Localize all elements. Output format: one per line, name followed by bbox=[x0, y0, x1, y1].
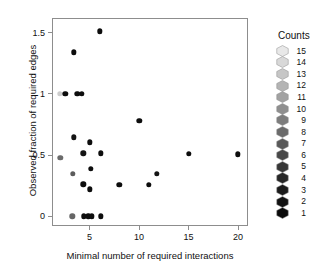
legend-count-label: 14 bbox=[292, 58, 306, 67]
x-tick-label: 5 bbox=[75, 232, 105, 242]
legend-count-label: 13 bbox=[292, 70, 306, 79]
hexagon-swatch-icon bbox=[276, 68, 289, 80]
legend-count-label: 10 bbox=[292, 105, 306, 114]
legend-item: 14 bbox=[276, 57, 327, 69]
legend-count-label: 8 bbox=[292, 128, 306, 137]
legend-count-label: 3 bbox=[292, 186, 306, 195]
x-axis-title: Minimal number of required interactions bbox=[52, 250, 248, 261]
x-tick-label: 15 bbox=[174, 232, 204, 242]
legend-item: 11 bbox=[276, 91, 327, 103]
hexagon-swatch-icon bbox=[276, 149, 289, 161]
y-tick-mark bbox=[48, 155, 52, 156]
hexagon-swatch-icon bbox=[276, 103, 289, 115]
legend-item: 8 bbox=[276, 126, 327, 138]
x-tick-mark bbox=[89, 226, 90, 230]
legend-item: 2 bbox=[276, 196, 327, 208]
hexagon-swatch-icon bbox=[276, 184, 289, 196]
legend-item: 5 bbox=[276, 161, 327, 173]
hexagon-swatch-icon bbox=[276, 56, 289, 68]
legend-count-label: 4 bbox=[292, 174, 306, 183]
legend-item: 6 bbox=[276, 149, 327, 161]
hexagon-swatch-icon bbox=[276, 45, 289, 57]
counts-legend: Counts 151413121110987654321 bbox=[276, 30, 327, 219]
hexagon-swatch-icon bbox=[276, 161, 289, 173]
hexagon-swatch-icon bbox=[276, 207, 289, 219]
legend-count-label: 1 bbox=[292, 209, 306, 218]
hexagon-swatch-icon bbox=[276, 138, 289, 150]
legend-count-label: 2 bbox=[292, 197, 306, 206]
legend-item: 9 bbox=[276, 115, 327, 127]
legend-count-label: 11 bbox=[292, 93, 306, 102]
y-tick-mark bbox=[48, 216, 52, 217]
legend-items: 151413121110987654321 bbox=[276, 45, 327, 219]
x-tick-mark bbox=[188, 226, 189, 230]
legend-count-label: 12 bbox=[292, 81, 306, 90]
y-axis-title: Observed fraction of required edges bbox=[27, 31, 38, 211]
y-tick-label: 0 bbox=[12, 211, 45, 221]
legend-item: 1 bbox=[276, 207, 327, 219]
hexagon-swatch-icon bbox=[276, 114, 289, 126]
legend-title: Counts bbox=[278, 30, 327, 41]
legend-item: 15 bbox=[276, 45, 327, 57]
legend-count-label: 7 bbox=[292, 139, 306, 148]
hexagon-swatch-icon bbox=[276, 196, 289, 208]
legend-item: 10 bbox=[276, 103, 327, 115]
legend-item: 3 bbox=[276, 184, 327, 196]
legend-item: 12 bbox=[276, 80, 327, 92]
legend-count-label: 15 bbox=[292, 47, 306, 56]
x-tick-mark bbox=[139, 226, 140, 230]
scatter-plot-figure: 510152000.511.5 Observed fraction of req… bbox=[0, 0, 327, 271]
x-tick-label: 10 bbox=[124, 232, 154, 242]
legend-item: 7 bbox=[276, 138, 327, 150]
legend-item: 13 bbox=[276, 68, 327, 80]
x-tick-label: 20 bbox=[223, 232, 253, 242]
plot-area bbox=[52, 18, 248, 226]
legend-count-label: 9 bbox=[292, 116, 306, 125]
hexagon-swatch-icon bbox=[276, 91, 289, 103]
x-tick-mark bbox=[238, 226, 239, 230]
y-tick-mark bbox=[48, 32, 52, 33]
legend-count-label: 6 bbox=[292, 151, 306, 160]
hexagon-swatch-icon bbox=[276, 126, 289, 138]
legend-item: 4 bbox=[276, 173, 327, 185]
legend-count-label: 5 bbox=[292, 162, 306, 171]
y-tick-mark bbox=[48, 93, 52, 94]
hexagon-swatch-icon bbox=[276, 80, 289, 92]
hexagon-swatch-icon bbox=[276, 172, 289, 184]
